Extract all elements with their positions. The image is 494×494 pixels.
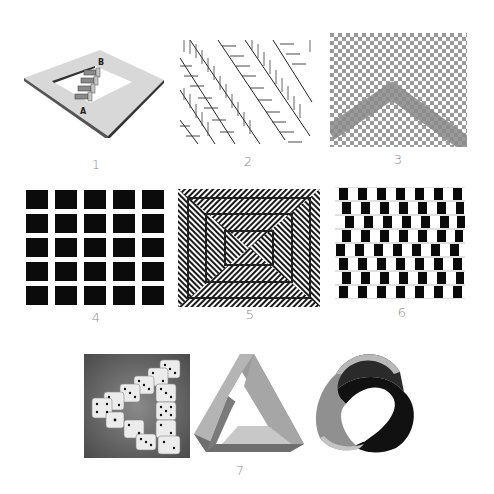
- penrose-stairs-image: B A: [22, 48, 167, 138]
- cafe-wall-image: [335, 187, 465, 299]
- panel-cafe-wall: [335, 187, 465, 299]
- panel-penrose-stairs: B A: [22, 48, 167, 138]
- panel-impossible-dice: [84, 354, 190, 458]
- panel-hermann-grid: [26, 190, 166, 308]
- checkerboard-image: [330, 33, 467, 147]
- zigzag-squares-image: [178, 189, 320, 307]
- panel-label-1: 1: [86, 157, 106, 172]
- mobius-strip-image: [306, 352, 424, 456]
- panel-checkerboard: [330, 33, 467, 147]
- impossible-dice-image: [84, 354, 190, 458]
- panel-mobius-strip: [306, 352, 424, 456]
- stairs-label-b: B: [98, 58, 104, 67]
- panel-label-6: 6: [392, 305, 412, 320]
- panel-label-4: 4: [86, 310, 106, 325]
- hermann-grid-image: [26, 190, 166, 308]
- penrose-triangle-image: [192, 352, 304, 458]
- panel-zigzag-squares: [178, 189, 320, 307]
- panel-zollner: [180, 36, 315, 146]
- panel-label-7: 7: [230, 463, 250, 478]
- panel-penrose-triangle: [192, 352, 304, 458]
- panel-label-3: 3: [388, 152, 408, 167]
- panel-label-2: 2: [238, 154, 258, 169]
- zollner-image: [180, 36, 315, 146]
- stairs-label-a: A: [80, 107, 87, 116]
- panel-label-5: 5: [240, 307, 260, 322]
